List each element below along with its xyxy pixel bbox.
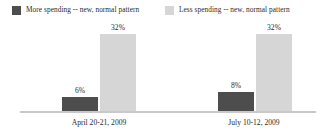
bar-value-label: 32% bbox=[267, 23, 281, 32]
bar-value-label: 8% bbox=[231, 81, 241, 90]
chart-legend: More spending -- new, normal pattern Les… bbox=[0, 0, 326, 20]
bar-more-spending-july bbox=[218, 92, 254, 111]
bar-group-april: 6% 32% bbox=[62, 20, 136, 111]
category-label-april: April 20-21, 2009 bbox=[62, 118, 136, 128]
x-axis-category-labels: April 20-21, 2009 July 10-12, 2009 bbox=[0, 115, 326, 134]
bar-group-july: 8% 32% bbox=[218, 20, 290, 111]
x-axis-baseline bbox=[20, 111, 316, 113]
legend-label-less-spending: Less spending -- new, normal pattern bbox=[179, 5, 290, 15]
bar-slot-less-spending: 32% bbox=[100, 20, 136, 111]
bar-slot-less-spending: 32% bbox=[256, 20, 292, 111]
bar-value-label: 32% bbox=[111, 23, 125, 32]
bar-value-label: 6% bbox=[75, 86, 85, 95]
legend-swatch-more-spending bbox=[12, 6, 21, 15]
bar-less-spending-july bbox=[256, 34, 292, 111]
bar-slot-more-spending: 6% bbox=[62, 20, 98, 111]
bar-more-spending-april bbox=[62, 97, 98, 111]
legend-item-more-spending: More spending -- new, normal pattern bbox=[12, 3, 139, 17]
bar-less-spending-april bbox=[100, 34, 136, 111]
bar-slot-more-spending: 8% bbox=[218, 20, 254, 111]
bar-chart: More spending -- new, normal pattern Les… bbox=[0, 0, 326, 134]
legend-swatch-less-spending bbox=[165, 6, 174, 15]
legend-label-more-spending: More spending -- new, normal pattern bbox=[26, 5, 139, 15]
legend-item-less-spending: Less spending -- new, normal pattern bbox=[165, 3, 290, 17]
plot-area: 6% 32% 8% 32% bbox=[0, 20, 326, 113]
category-label-july: July 10-12, 2009 bbox=[218, 118, 290, 128]
